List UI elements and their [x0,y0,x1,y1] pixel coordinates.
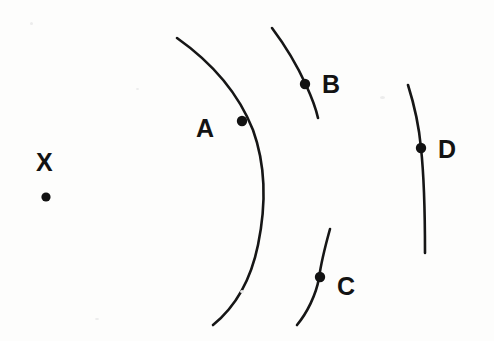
wavefront-label-a: A [196,116,214,141]
wavefront-arc-a [177,38,263,325]
wavefront-points [41,79,426,282]
source-point-marker-x [41,192,50,201]
diagram-canvas: X A B C D [0,0,494,341]
wavefront-arcs [177,28,425,325]
wavefront-label-b: B [322,72,340,97]
wavefront-label-c: C [337,274,355,299]
wavefront-diagram [0,0,494,341]
wavefront-arc-b [272,28,318,118]
point-marker-c [315,272,325,282]
wavefront-label-d: D [438,137,456,162]
wavefront-arc-d [408,85,425,253]
point-marker-b [300,79,310,89]
source-label-x: X [36,150,53,175]
point-marker-d [416,143,426,153]
point-marker-a [237,116,247,126]
